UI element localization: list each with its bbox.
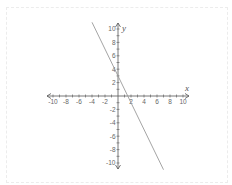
x-tick-label: 6 <box>155 98 159 105</box>
y-tick-label: -10 <box>106 159 116 166</box>
x-tick-label: -10 <box>48 98 58 105</box>
x-tick-label: -8 <box>63 98 69 105</box>
x-tick-label: -6 <box>76 98 82 105</box>
x-tick-label: 10 <box>179 98 187 105</box>
y-tick-label: -6 <box>110 133 116 140</box>
y-tick-label: 2 <box>112 79 116 86</box>
y-tick-label: -8 <box>110 146 116 153</box>
y-tick-label: -2 <box>110 106 116 113</box>
x-tick-label: -2 <box>102 98 108 105</box>
y-tick-label: -4 <box>110 119 116 126</box>
y-tick-label: 8 <box>112 39 116 46</box>
x-axis-label: x <box>184 83 189 93</box>
x-tick-label: 8 <box>168 98 172 105</box>
y-tick-label: 6 <box>112 52 116 59</box>
coordinate-plane: -10-8-6-4-2246810108642-2-4-6-8-10xy <box>0 0 232 185</box>
y-axis-label: y <box>121 23 126 33</box>
x-tick-label: -4 <box>89 98 95 105</box>
y-tick-label: 10 <box>108 25 116 32</box>
x-tick-label: 4 <box>142 98 146 105</box>
